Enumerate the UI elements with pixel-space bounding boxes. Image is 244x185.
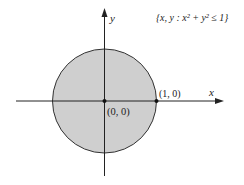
y-axis-label: y (109, 12, 115, 24)
set-definition-label: {x, y : x² + y² ≤ 1} (156, 12, 228, 23)
y-axis-arrow-icon (102, 8, 108, 17)
origin-point (103, 99, 107, 103)
x-axis-label: x (208, 86, 214, 98)
point-1-0 (155, 99, 159, 103)
point-label-origin: (0, 0) (107, 106, 130, 118)
point-label-1-0: (1, 0) (159, 88, 181, 100)
x-axis-arrow-icon (215, 98, 224, 104)
unit-disk-diagram: y x {x, y : x² + y² ≤ 1} (1, 0) (0, 0) (0, 0, 244, 185)
